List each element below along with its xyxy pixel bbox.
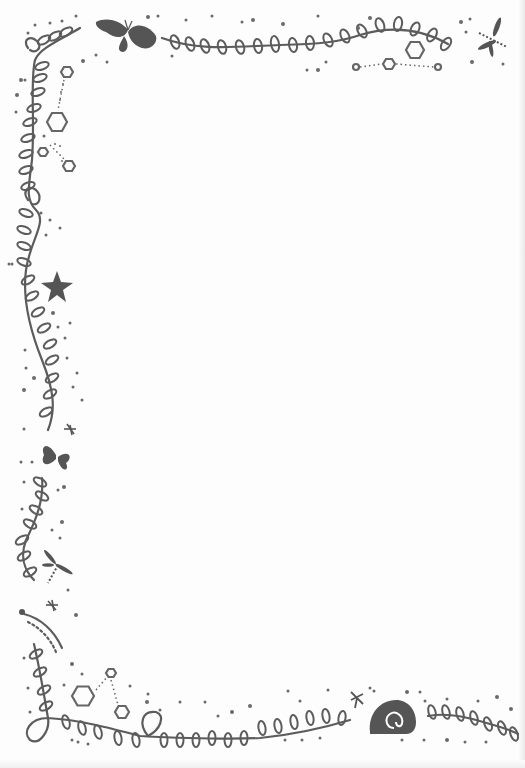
dragonfly-left-icon bbox=[42, 549, 74, 583]
dragonfly-icon bbox=[477, 17, 507, 57]
dot-scatter bbox=[8, 15, 514, 746]
snail-shell-icon bbox=[370, 700, 416, 734]
dragonfly-bottom-icon bbox=[351, 692, 363, 708]
bottom-vine bbox=[27, 644, 350, 748]
starfish-icon bbox=[41, 271, 73, 302]
hexagon-group bbox=[38, 42, 441, 718]
small-dragonfly-icon-2 bbox=[46, 600, 58, 611]
top-vine bbox=[162, 16, 453, 54]
stationery-page bbox=[0, 0, 525, 768]
small-dragonfly-icon bbox=[64, 424, 76, 435]
dotted-lines bbox=[50, 64, 434, 705]
bottom-right-vine bbox=[427, 704, 522, 741]
page-edge-shadow bbox=[519, 0, 525, 768]
butterfly-icon bbox=[43, 446, 70, 470]
moth-icon bbox=[96, 20, 156, 52]
page-bottom-shadow bbox=[0, 760, 525, 768]
doodle-border bbox=[0, 0, 525, 768]
caterpillar-icon bbox=[19, 609, 62, 652]
